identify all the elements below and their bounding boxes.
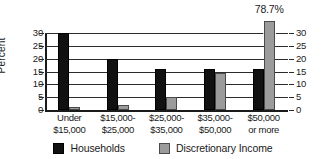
x-axis-labels: Under$15,000$15,000-$25,000$25,000-$35,0… — [45, 112, 288, 138]
y-tick-mark-right — [289, 84, 294, 85]
y-tick-mark-left — [39, 46, 44, 47]
bar-group — [94, 33, 143, 110]
bar-discretionary — [166, 97, 177, 110]
y-tick-mark-right — [289, 46, 294, 47]
bar-group: 78.7% — [239, 33, 288, 110]
y-tick-mark-left — [39, 59, 44, 60]
bar-households — [204, 69, 215, 110]
bar-households — [58, 33, 69, 110]
y-tick-label-right: 0 — [296, 105, 320, 115]
legend-item: Discretionary Income — [159, 142, 273, 154]
legend-label: Households — [70, 142, 124, 154]
y-tick-label-right: 25 — [296, 41, 320, 51]
y-tick-mark-left — [39, 72, 44, 73]
y-tick-label-right: 30 — [296, 28, 320, 38]
y-axis-title: Percent — [0, 38, 7, 74]
bar-group — [191, 33, 240, 110]
bar-households — [253, 69, 264, 110]
y-tick-mark-left — [39, 97, 44, 98]
legend-label: Discretionary Income — [176, 142, 273, 154]
y-tick-label-right: 15 — [296, 67, 320, 77]
y-tick-mark-right — [289, 110, 294, 111]
y-tick-mark-right — [289, 97, 294, 98]
y-tick-mark-right — [289, 59, 294, 60]
legend-swatch-discretionary — [159, 143, 170, 154]
x-axis-category-label: $50,000or more — [230, 112, 297, 135]
bar-households — [155, 69, 166, 110]
y-tick-mark-right — [289, 33, 294, 34]
bar-households — [107, 59, 118, 110]
bar-group — [45, 33, 94, 110]
y-tick-mark-left — [39, 84, 44, 85]
y-tick-mark-left — [39, 33, 44, 34]
bar-chart: Percent 302520151050 302520151050 78.7% … — [0, 0, 326, 159]
y-tick-mark-left — [39, 110, 44, 111]
x-axis-category-line: $50,000 — [230, 112, 297, 124]
y-tick-label-right: 5 — [296, 92, 320, 102]
plot-area: 78.7% — [45, 33, 288, 110]
bar-group — [142, 33, 191, 110]
y-tick-label-right: 20 — [296, 54, 320, 64]
y-tick-label-right: 10 — [296, 79, 320, 89]
y-tick-mark-right — [289, 72, 294, 73]
legend-item: Households — [53, 142, 124, 154]
bar-discretionary — [264, 21, 275, 110]
chart-legend: HouseholdsDiscretionary Income — [0, 139, 326, 157]
bar-value-label: 78.7% — [248, 3, 291, 15]
bar-discretionary — [215, 73, 226, 110]
x-axis-category-line: or more — [230, 124, 297, 136]
legend-swatch-households — [53, 143, 64, 154]
